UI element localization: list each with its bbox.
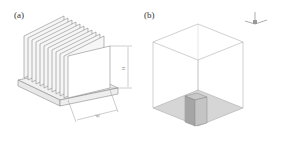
heat-sink-drawing: H W — [0, 0, 141, 145]
panel-a: (a) — [0, 0, 141, 145]
panel-b: (b) — [141, 0, 282, 145]
width-dimension-label: W — [95, 113, 101, 119]
axis-triad-icon — [245, 12, 267, 24]
height-dimension-label: H — [121, 66, 126, 70]
domain-drawing — [141, 0, 282, 145]
